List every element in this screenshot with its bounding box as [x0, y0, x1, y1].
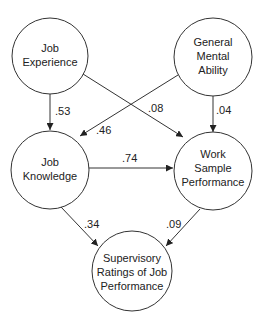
- node-label-line: Ratings of Job: [97, 266, 167, 278]
- node-label-line: Job: [41, 42, 59, 54]
- node-label-line: Job: [41, 156, 59, 168]
- node-label-line: Mental: [196, 50, 229, 62]
- edge-label-je-jk: .53: [55, 105, 70, 117]
- node-label-line: Supervisory: [103, 252, 162, 264]
- edge-label-ws-sr: .09: [166, 218, 181, 230]
- node-label-line: Performance: [101, 280, 164, 292]
- edge-label-jk-sr: .34: [84, 218, 99, 230]
- node-label-line: General: [193, 36, 232, 48]
- edge-label-gma-jk: .46: [96, 124, 111, 136]
- edge-label-gma-ws: .04: [216, 104, 231, 116]
- node-label-line: Work: [200, 148, 226, 160]
- path-diagram: .53 .08 .46 .04 .74 .34 .09 Job Experien…: [0, 0, 259, 321]
- edge-gma-to-job-knowledge: [80, 75, 178, 136]
- node-label-line: Sample: [194, 162, 231, 174]
- node-general-mental-ability: General Mental Ability: [174, 18, 252, 96]
- node-label-line: Ability: [198, 64, 228, 76]
- node-work-sample-performance: Work Sample Performance: [174, 132, 252, 210]
- edge-label-je-ws: .08: [148, 102, 163, 114]
- node-job-experience: Job Experience: [12, 18, 88, 94]
- node-supervisory-ratings: Supervisory Ratings of Job Performance: [92, 231, 172, 311]
- node-label-line: Knowledge: [23, 170, 77, 182]
- node-job-knowledge: Job Knowledge: [11, 131, 89, 209]
- node-label-line: Experience: [22, 56, 77, 68]
- node-label-line: Performance: [182, 176, 245, 188]
- edge-label-jk-ws: .74: [122, 152, 137, 164]
